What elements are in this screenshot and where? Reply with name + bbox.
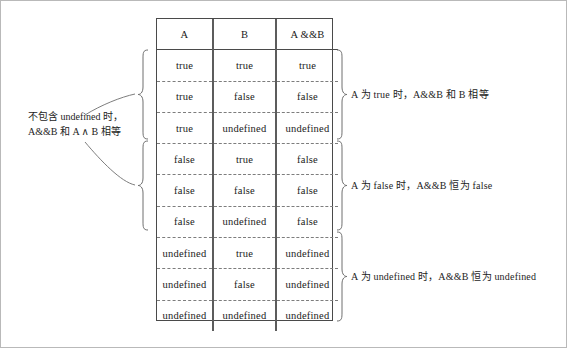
cell-a: false [157, 206, 213, 237]
cell-result: false [276, 206, 338, 237]
cell-result: false [276, 81, 338, 112]
left-annotation: 不包含 undefined 时， A&&B 和 A ∧ B 相等 [28, 109, 140, 139]
cell-a: true [157, 50, 213, 81]
cell-result: undefined [276, 300, 338, 331]
figure-container: A B A &&B true true true true false fals… [0, 0, 567, 348]
right-annotation-false: A 为 false 时，A&&B 恒为 false [351, 179, 492, 193]
table-row: false true false [157, 144, 338, 175]
table-row: undefined true undefined [157, 238, 338, 269]
table-header-row: A B A &&B [157, 19, 338, 50]
cell-a: false [157, 175, 213, 206]
cell-result: true [276, 50, 338, 81]
left-annotation-line2: A&&B 和 A ∧ B 相等 [28, 124, 140, 139]
table-row: undefined undefined undefined [157, 300, 338, 331]
cell-b: undefined [213, 206, 276, 237]
cell-b: true [213, 50, 276, 81]
cell-b: true [213, 144, 276, 175]
table-body: true true true true false false true und… [157, 50, 338, 331]
cell-b: false [213, 175, 276, 206]
column-header-aandb: A &&B [276, 19, 338, 50]
cell-b: false [213, 81, 276, 112]
truth-table: A B A &&B true true true true false fals… [156, 18, 333, 321]
left-brace-lower [137, 140, 149, 231]
cell-a: undefined [157, 238, 213, 269]
column-header-a: A [157, 19, 213, 50]
table-row: false false false [157, 175, 338, 206]
cell-a: undefined [157, 269, 213, 300]
cell-result: undefined [276, 112, 338, 143]
cell-b: undefined [213, 300, 276, 331]
cell-b: true [213, 238, 276, 269]
cell-result: undefined [276, 238, 338, 269]
right-annotation-true: A 为 true 时，A&&B 和 B 相等 [351, 88, 489, 102]
cell-a: true [157, 81, 213, 112]
cell-result: false [276, 175, 338, 206]
table-row: true undefined undefined [157, 112, 338, 143]
cell-a: true [157, 112, 213, 143]
cell-b: undefined [213, 112, 276, 143]
cell-result: false [276, 144, 338, 175]
table-row: false undefined false [157, 206, 338, 237]
table-row: undefined false undefined [157, 269, 338, 300]
cell-result: undefined [276, 269, 338, 300]
cell-a: false [157, 144, 213, 175]
cell-b: false [213, 269, 276, 300]
right-annotation-undefined: A 为 undefined 时，A&&B 恒为 undefined [351, 270, 536, 284]
cell-a: undefined [157, 300, 213, 331]
table-row: true false false [157, 81, 338, 112]
column-header-b: B [213, 19, 276, 50]
left-annotation-line1: 不包含 undefined 时， [28, 109, 140, 124]
table-row: true true true [157, 50, 338, 81]
